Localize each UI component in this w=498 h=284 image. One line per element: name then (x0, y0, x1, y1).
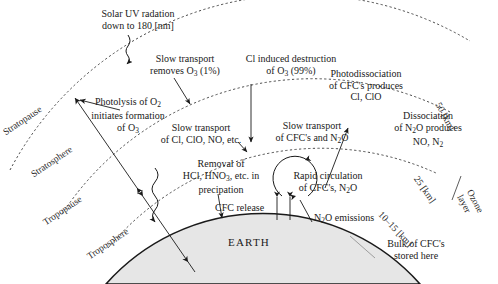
photodissociation-label: Photodissociationof CFC's producesCl, Cl… (310, 68, 422, 103)
bulk-cfc-label: Bulk of CFC'sstored here (372, 238, 460, 261)
dissociation-n2o-label: Dissociationof N2O producesNO, N2 (376, 110, 480, 150)
slow-transport-cl-label: Slow transportof Cl, ClO, NO, etc. (148, 122, 254, 145)
earth-label: EARTH (228, 236, 270, 248)
diagram-canvas: Solar UV radationdown to 180 [nm] Slow t… (0, 0, 498, 284)
solar-uv-label: Solar UV radationdown to 180 [nm] (76, 8, 200, 31)
slow-transport-o3-label: Slow transportremoves O3 (1%) (130, 53, 240, 79)
cfc-release-label: CFC release (215, 202, 281, 214)
removal-label: Removal ofHCl, HNO3, etc. inprecipation (160, 158, 282, 195)
rapid-circulation-label: Rapid circulationof CFC's, N2O (272, 170, 384, 196)
slow-transport-cfc-label: Slow transportof CFC's and N2O (258, 120, 366, 146)
